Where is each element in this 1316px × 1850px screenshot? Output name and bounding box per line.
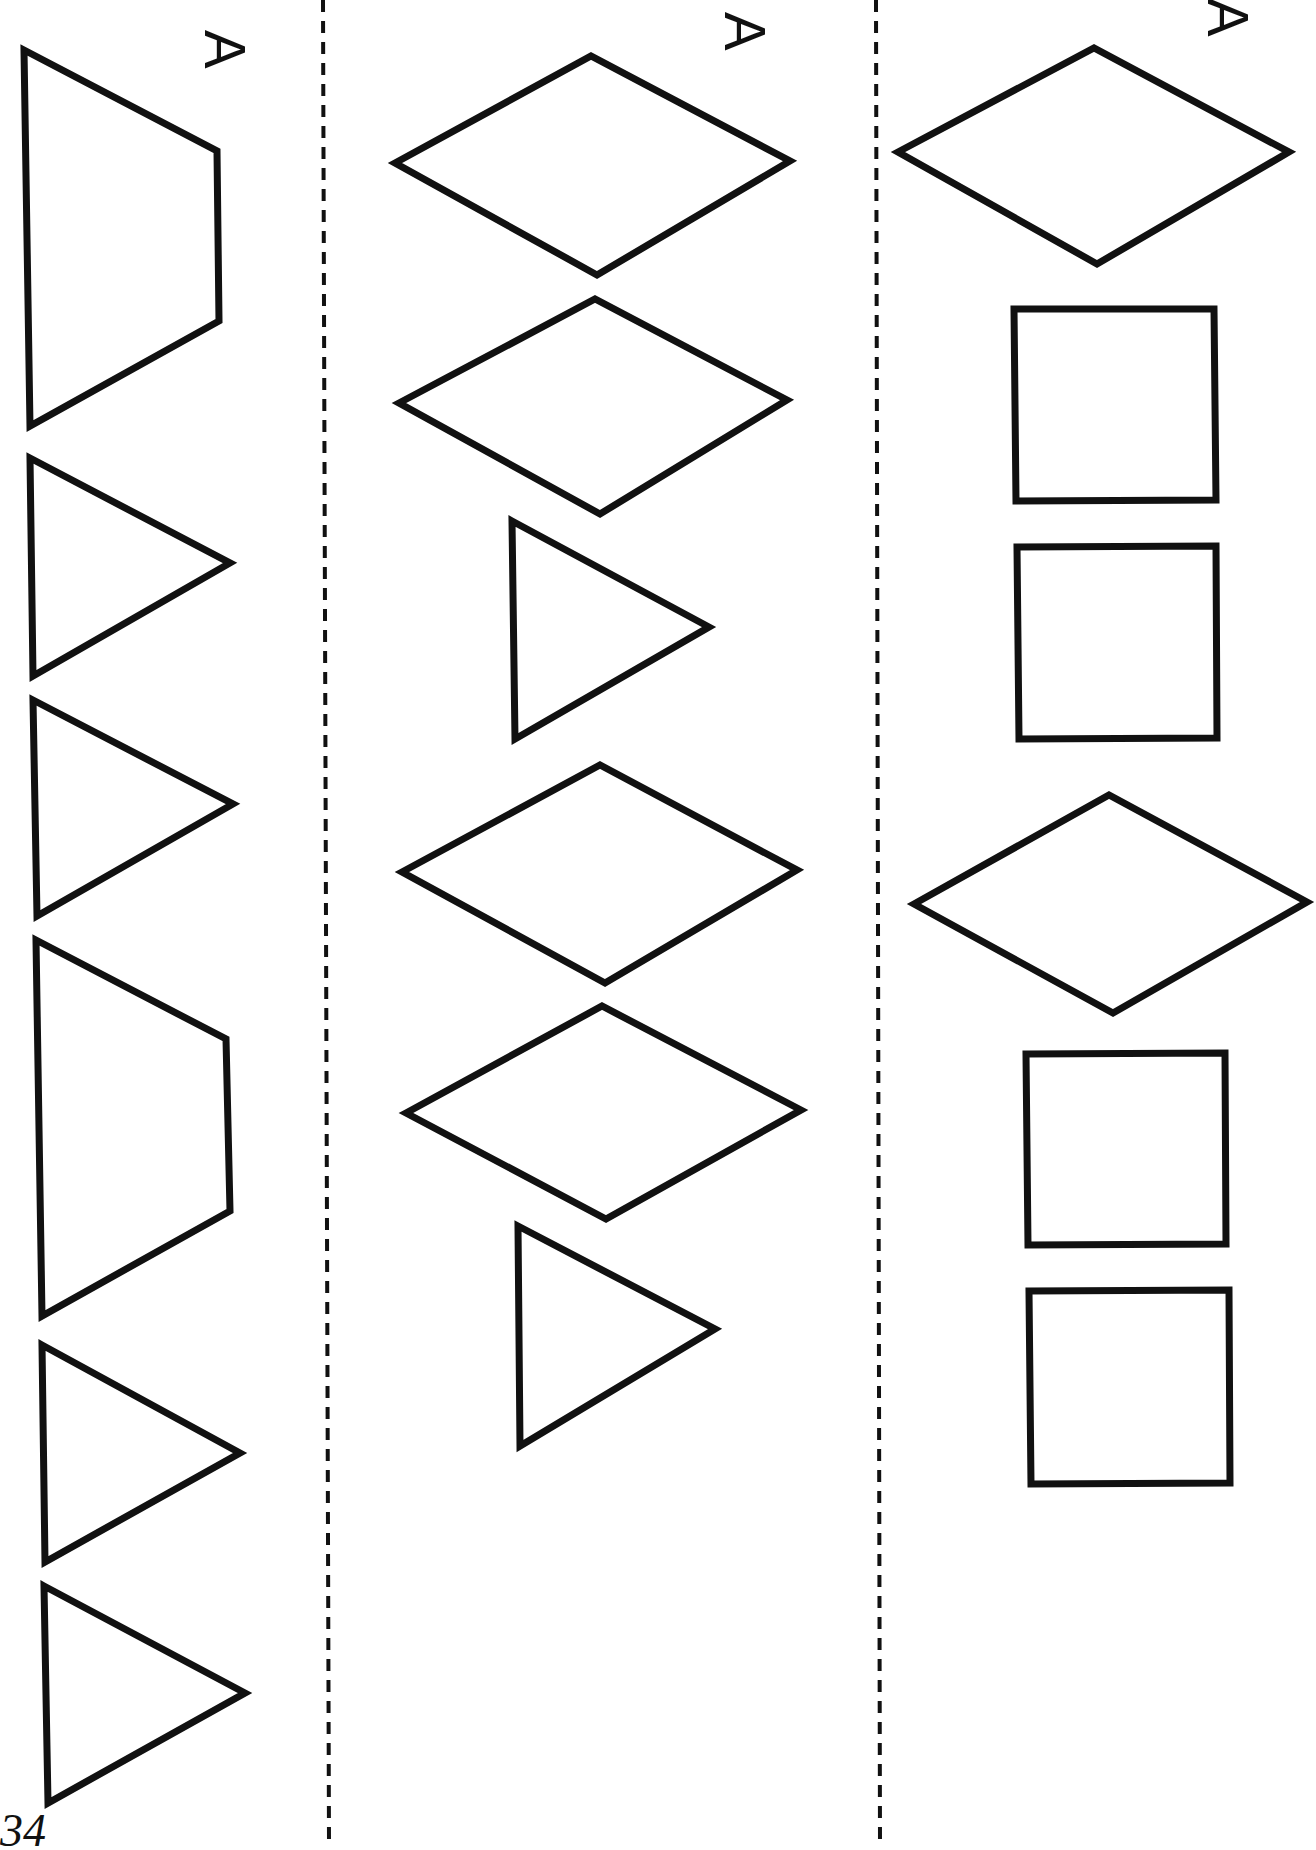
column-label-3: A [1196,0,1261,37]
triangle-shape [30,458,230,676]
triangle-shape [44,1586,245,1803]
column-3: A [898,0,1307,1484]
rhombus-shape [406,1006,801,1219]
square-shape [1026,1053,1226,1245]
square-shape [1014,309,1216,501]
page-number: 34 [0,1808,46,1850]
rhombus-shape [399,299,787,514]
triangle-shape [42,1345,240,1562]
triangle-shape [512,521,709,739]
trapezoid-shape [24,50,219,426]
triangle-shape [518,1226,715,1446]
dashed-cut-line-1 [323,0,329,1842]
square-shape [1017,546,1217,739]
rhombus-shape [402,765,797,983]
triangle-shape [33,700,233,916]
dashed-cut-line-2 [876,0,880,1842]
column-1: A [24,30,258,1803]
rhombus-shape [898,48,1289,264]
trapezoid-shape [36,940,230,1316]
rhombus-shape [914,795,1307,1013]
rhombus-shape [395,56,790,275]
column-label-2: A [713,12,778,51]
column-2: A [395,12,801,1446]
column-label-1: A [193,30,258,69]
square-shape [1029,1290,1230,1484]
